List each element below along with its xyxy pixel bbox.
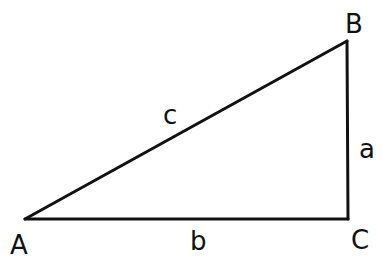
vertex-label-c: C <box>351 225 369 255</box>
side-label-b: b <box>190 226 207 256</box>
triangle-canvas: A B C c a b <box>0 0 383 275</box>
vertex-label-b: B <box>345 9 363 39</box>
vertex-label-a: A <box>10 230 28 260</box>
side-c-line <box>25 41 347 219</box>
side-label-a: a <box>359 134 375 164</box>
triangle-diagram: A B C c a b <box>0 0 383 275</box>
side-label-c: c <box>163 100 177 130</box>
side-a-line <box>347 41 348 219</box>
